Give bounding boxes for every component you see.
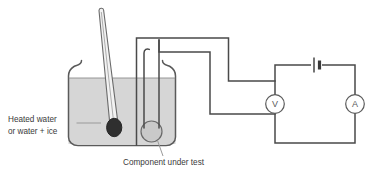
physics-circuit-diagram: V A Heated water or water + ice Componen… bbox=[0, 0, 369, 173]
ammeter-symbol-label: A bbox=[352, 99, 358, 109]
thermometer-bulb bbox=[107, 118, 122, 136]
circuit-loop-rectangle bbox=[275, 65, 355, 143]
component-under-test-label: Component under test bbox=[123, 158, 205, 167]
heated-water-label-line1: Heated water bbox=[8, 115, 57, 124]
heated-water-label-line2: or water + ice bbox=[8, 127, 58, 136]
voltmeter-symbol-label: V bbox=[272, 99, 278, 109]
wire-inner-to-voltmeter-bottom bbox=[159, 40, 275, 114]
diagram-canvas: V A Heated water or water + ice Componen… bbox=[0, 0, 369, 173]
